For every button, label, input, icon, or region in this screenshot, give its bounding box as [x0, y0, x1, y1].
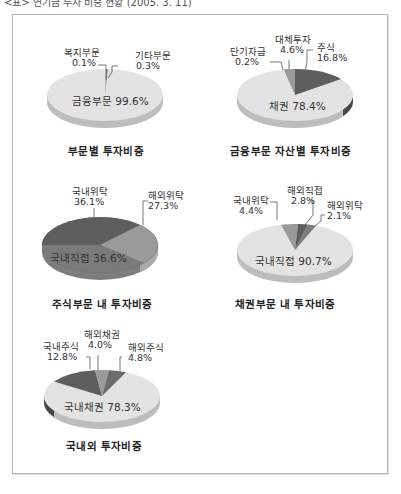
chart-title-finance-assets: 금융부문 자산별 투자비중	[230, 143, 351, 158]
value-bond-overseas-direct: 2.8%	[291, 195, 315, 206]
pie-finance-graphic: 대체투자 4.6% 단기자금 0.2% 주식 16.8% 채권 78.4%	[225, 40, 365, 150]
value-domestic-stock: 12.8%	[47, 351, 77, 362]
figure-caption: <표> 연기금 투자 비중 현황 (2005. 3. 11)	[4, 0, 192, 9]
value-overseas-trust: 27.3%	[148, 200, 178, 211]
value-other: 0.3%	[136, 60, 160, 71]
label-bond: 채권 78.4%	[269, 100, 326, 112]
pie-chart-bond: 국내위탁 4.4% 해외직접 2.8% 해외위탁 2.1% 국내직접 90.7%	[225, 195, 365, 305]
value-shortterm: 0.2%	[235, 56, 259, 67]
label-finance: 금융부문 99.6%	[72, 95, 149, 107]
pie-chart-domestic-overseas: 해외채권 4.0% 국내주식 12.8% 해외주식 4.8% 국내채권 78.3…	[40, 345, 180, 445]
value-overseas-stock: 4.8%	[128, 352, 152, 363]
pie-chart-finance-assets: 대체투자 4.6% 단기자금 0.2% 주식 16.8% 채권 78.4%	[225, 40, 365, 150]
value-bond-domestic-trust: 4.4%	[239, 205, 263, 216]
value-overseas-bond: 4.0%	[88, 339, 112, 350]
value-bond-overseas-trust: 2.1%	[327, 210, 351, 221]
value-welfare: 0.1%	[72, 57, 96, 68]
value-alternative: 4.6%	[280, 44, 304, 55]
chart-title-bond: 채권부문 내 투자비중	[235, 296, 336, 311]
pie-stock-graphic: 국내위탁 36.1% 해외위탁 27.3% 국내직접 36.6%	[40, 195, 180, 305]
chart-title-sector: 부문별 투자비중	[68, 143, 144, 158]
value-stock: 16.8%	[317, 52, 347, 63]
label-domestic-bond: 국내채권 78.3%	[64, 401, 141, 413]
chart-title-domestic-overseas: 국내외 투자비중	[66, 438, 142, 453]
pie-bond-graphic: 국내위탁 4.4% 해외직접 2.8% 해외위탁 2.1% 국내직접 90.7%	[225, 195, 365, 305]
value-domestic-trust: 36.1%	[74, 196, 104, 207]
pie-domestic-overseas-graphic: 해외채권 4.0% 국내주식 12.8% 해외주식 4.8% 국내채권 78.3…	[40, 345, 180, 445]
pie-chart-stock: 국내위탁 36.1% 해외위탁 27.3% 국내직접 36.6%	[40, 195, 180, 305]
chart-title-stock: 주식부문 내 투자비중	[52, 296, 153, 311]
label-domestic-direct: 국내직접 36.6%	[50, 252, 127, 264]
label-bond-domestic-direct: 국내직접 90.7%	[255, 255, 332, 267]
